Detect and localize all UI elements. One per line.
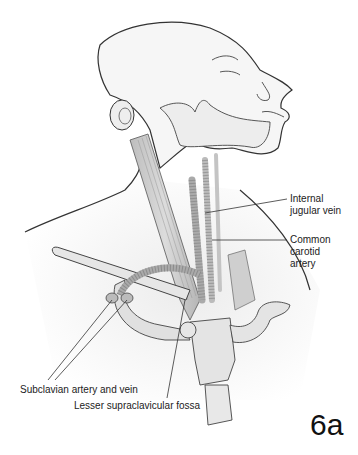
label-line: Common (290, 234, 331, 246)
label-subclavian-artery-vein: Subclavian artery and vein (20, 384, 138, 396)
label-line: artery (290, 258, 331, 270)
label-internal-jugular-vein: Internal jugular vein (290, 193, 341, 217)
label-common-carotid-artery: Common carotid artery (290, 234, 331, 270)
label-line: Internal (290, 193, 341, 205)
label-lesser-supraclavicular-fossa: Lesser supraclavicular fossa (74, 400, 200, 412)
head-shape (98, 22, 292, 168)
label-line: jugular vein (290, 205, 341, 217)
label-line: carotid (290, 246, 331, 258)
figure-number: 6a (310, 410, 343, 440)
